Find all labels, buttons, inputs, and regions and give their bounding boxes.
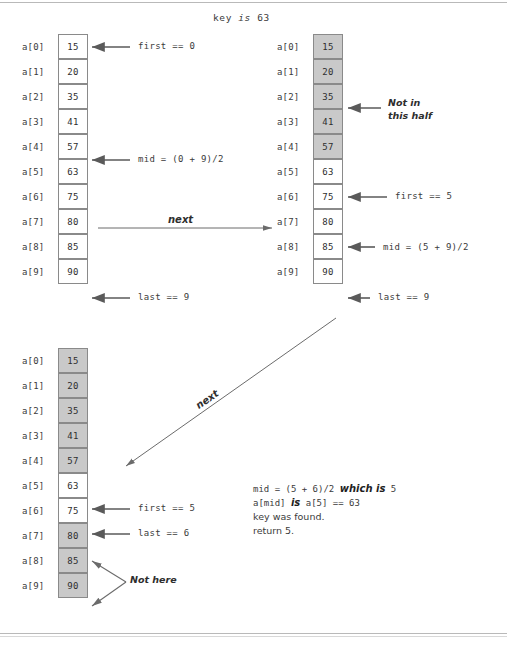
array-cell: 75	[313, 184, 343, 209]
result-line2-a: a[mid]	[253, 498, 286, 508]
array-index-label: a[9]	[22, 259, 52, 284]
array3-last-label: last == 6	[138, 528, 189, 538]
array-cell: 63	[58, 159, 88, 184]
array1-mid-label: mid = (0 + 9)/2	[138, 154, 224, 164]
array-cell: 41	[58, 423, 88, 448]
array-index-label: a[6]	[22, 498, 52, 523]
result-line-3: key was found.	[253, 510, 396, 524]
page-rule-bottom-secondary	[0, 636, 507, 637]
array-cell: 75	[58, 498, 88, 523]
array-cell: 57	[58, 134, 88, 159]
result-line-2: a[mid] is a[5] == 63	[253, 496, 396, 510]
array-cell: 20	[58, 59, 88, 84]
result-line2-b: a[5] == 63	[306, 498, 360, 508]
array-cell: 85	[58, 234, 88, 259]
array-cell: 90	[58, 573, 88, 598]
array-cell: 57	[313, 134, 343, 159]
array-index-label: a[4]	[277, 134, 307, 159]
array-index-label: a[3]	[22, 423, 52, 448]
array-index-label: a[0]	[277, 34, 307, 59]
array-index-label: a[4]	[22, 448, 52, 473]
array-index-label: a[9]	[22, 573, 52, 598]
array-cell: 63	[58, 473, 88, 498]
figure-title: key is 63	[213, 12, 270, 23]
array-index-label: a[1]	[22, 59, 52, 84]
array-index-label: a[5]	[277, 159, 307, 184]
array-index-label: a[1]	[277, 59, 307, 84]
array-index-label: a[1]	[22, 373, 52, 398]
array-index-label: a[9]	[277, 259, 307, 284]
array-cell: 80	[313, 209, 343, 234]
next-horizontal-label: next	[168, 214, 193, 225]
array1-first-label: first == 0	[138, 41, 195, 51]
array2-mid-label: mid = (5 + 9)/2	[383, 242, 469, 252]
array-index-label: a[0]	[22, 348, 52, 373]
array-cell: 80	[58, 523, 88, 548]
array-index-label: a[3]	[277, 109, 307, 134]
array-cell: 80	[58, 209, 88, 234]
next-diagonal-arrow	[126, 318, 336, 466]
array-index-label: a[8]	[22, 548, 52, 573]
array-step-3: a[0]15a[1]20a[2]35a[3]41a[4]57a[5]63a[6]…	[22, 348, 92, 598]
array-cell: 41	[313, 109, 343, 134]
array-index-label: a[2]	[22, 398, 52, 423]
array3-not-here-arrows	[92, 561, 126, 606]
title-italic-word: is	[238, 12, 251, 23]
array3-first-label: first == 5	[138, 503, 195, 513]
array3-not-here-label: Not here	[130, 573, 177, 586]
array-cell: 41	[58, 109, 88, 134]
array-cell: 63	[313, 159, 343, 184]
array-index-label: a[7]	[22, 209, 52, 234]
next-diagonal-label: next	[194, 388, 221, 411]
array2-not-in-half-line2: this half	[388, 109, 432, 122]
array-index-label: a[8]	[277, 234, 307, 259]
array-index-label: a[7]	[22, 523, 52, 548]
array-cell: 15	[313, 34, 343, 59]
array-index-label: a[2]	[22, 84, 52, 109]
array-cell: 20	[58, 373, 88, 398]
array-cell: 20	[313, 59, 343, 84]
result-line1-value: 5	[391, 484, 396, 494]
result-line-1: mid = (5 + 6)/2 which is 5	[253, 482, 396, 496]
array-step-1: a[0]15a[1]20a[2]35a[3]41a[4]57a[5]63a[6]…	[22, 34, 92, 284]
array-cell: 35	[58, 84, 88, 109]
array-index-label: a[6]	[277, 184, 307, 209]
result-line-4: return 5.	[253, 524, 396, 538]
array-cell: 35	[313, 84, 343, 109]
title-prefix: key	[213, 12, 232, 23]
array-cell: 57	[58, 448, 88, 473]
array-cell: 90	[313, 259, 343, 284]
title-key-value: 63	[257, 12, 270, 23]
array-index-label: a[8]	[22, 234, 52, 259]
result-line1-code: mid = (5 + 6)/2	[253, 484, 334, 494]
array-step-2: a[0]15a[1]20a[2]35a[3]41a[4]57a[5]63a[6]…	[277, 34, 347, 284]
array-index-label: a[3]	[22, 109, 52, 134]
page-rule-top	[0, 2, 507, 3]
array-index-label: a[0]	[22, 34, 52, 59]
array-cell: 85	[313, 234, 343, 259]
page-rule-bottom	[0, 633, 507, 634]
result-line1-emph: which is	[340, 483, 386, 494]
array-cell: 15	[58, 34, 88, 59]
array-cell: 75	[58, 184, 88, 209]
array-cell: 90	[58, 259, 88, 284]
result-line2-emph: is	[291, 497, 300, 508]
array-cell: 85	[58, 548, 88, 573]
figure-canvas: key is 63 a[0]15a[1]20a[2]35a[3]41a[4]57…	[0, 0, 507, 647]
array-index-label: a[4]	[22, 134, 52, 159]
array-index-label: a[5]	[22, 159, 52, 184]
array2-not-in-half-line1: Not in	[388, 96, 420, 109]
array1-last-label: last == 9	[138, 292, 189, 302]
array2-first-label: first == 5	[395, 191, 452, 201]
array-index-label: a[6]	[22, 184, 52, 209]
array-index-label: a[7]	[277, 209, 307, 234]
array-cell: 35	[58, 398, 88, 423]
result-text-block: mid = (5 + 6)/2 which is 5 a[mid] is a[5…	[253, 482, 396, 538]
array-index-label: a[2]	[277, 84, 307, 109]
array-index-label: a[5]	[22, 473, 52, 498]
array2-last-label: last == 9	[378, 292, 429, 302]
array-cell: 15	[58, 348, 88, 373]
